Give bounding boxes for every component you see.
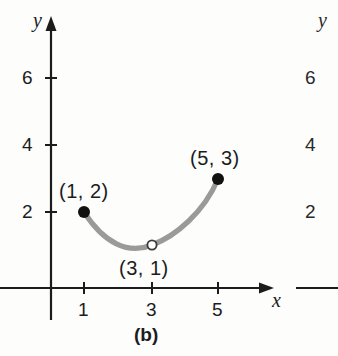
figure-b-container: 6 4 2 1 3 5 y x (1, 2) (3, 1) (5, 3) (b)… bbox=[0, 0, 338, 356]
point-label-right-endpoint: (5, 3) bbox=[190, 148, 240, 168]
neighbor-y-tick-label-2: 2 bbox=[305, 202, 316, 221]
neighbor-y-tick-label-6: 6 bbox=[305, 68, 316, 87]
y-tick-label-4: 4 bbox=[22, 135, 33, 154]
x-axis bbox=[0, 283, 274, 294]
y-tick-label-2: 2 bbox=[22, 202, 33, 221]
point-marker-filled-right bbox=[212, 173, 224, 185]
neighbor-y-tick-label-4: 4 bbox=[305, 135, 316, 154]
point-label-hole: (3, 1) bbox=[119, 258, 169, 278]
y-axis bbox=[46, 16, 57, 320]
y-axis-label: y bbox=[33, 10, 42, 30]
x-axis-label: x bbox=[272, 290, 281, 310]
x-tick-label-5: 5 bbox=[212, 300, 223, 319]
point-label-left-endpoint: (1, 2) bbox=[59, 181, 109, 201]
y-tick-label-6: 6 bbox=[22, 68, 33, 87]
x-tick-label-3: 3 bbox=[146, 300, 157, 319]
point-marker-filled-left bbox=[78, 206, 90, 218]
neighbor-y-axis-label: y bbox=[318, 10, 327, 30]
figure-caption: (b) bbox=[134, 325, 158, 344]
x-tick-label-1: 1 bbox=[78, 300, 89, 319]
point-marker-open-hole bbox=[147, 240, 156, 249]
coordinate-plane bbox=[0, 0, 338, 356]
